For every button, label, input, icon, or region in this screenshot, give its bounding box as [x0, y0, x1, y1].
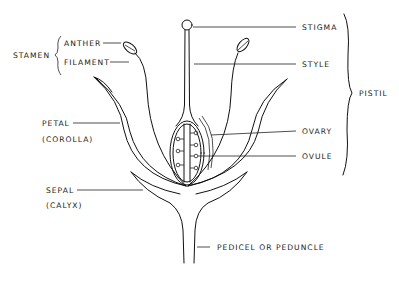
style-left: [176, 30, 185, 126]
corolla-label: (COROLLA): [42, 136, 93, 144]
ovules-right: [190, 131, 198, 170]
filament-label: FILAMENT: [64, 59, 110, 67]
pedicel-label: PEDICEL OR PEDUNCLE: [217, 244, 325, 252]
ovule-label: OVULE: [302, 153, 333, 161]
anther-label: ANTHER: [64, 40, 101, 48]
style-label: STYLE: [302, 61, 330, 69]
ovules-left: [176, 137, 184, 167]
stigma-label: STIGMA: [302, 24, 337, 32]
flower-diagram: STAMEN ANTHER FILAMENT PETAL (COROLLA) S…: [0, 0, 399, 281]
stigma-shape: [182, 20, 192, 30]
filament-left: [135, 53, 186, 186]
stamen-brace: [55, 36, 61, 75]
sepal-left-inner: [131, 172, 180, 194]
stamen-label: STAMEN: [13, 52, 50, 60]
calyx-label: (CALYX): [46, 202, 82, 210]
pistil-label: PISTIL: [359, 90, 388, 98]
sepal-label: SEPAL: [46, 187, 74, 195]
ovary-label: OVARY: [302, 128, 332, 136]
sepal-right-inner: [196, 172, 247, 194]
pistil-brace: [343, 14, 352, 175]
petal-label: PETAL: [42, 120, 70, 128]
style-right: [189, 30, 198, 126]
sepal-left-outer: [131, 172, 184, 263]
